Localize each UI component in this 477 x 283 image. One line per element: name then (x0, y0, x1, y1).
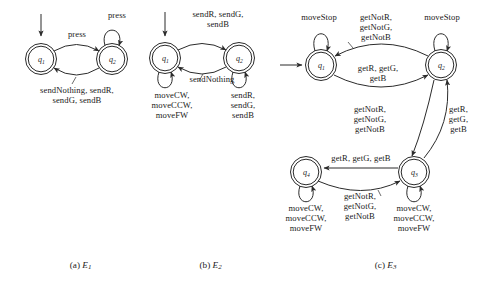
automata-figure: q1 q2 q1 q2 (0, 0, 477, 283)
edge-q1-q2-e1 (54, 45, 99, 52)
label-c-get-vert: getR, getG, getB (440, 104, 477, 135)
label-c-getnot-vert: getNotR, getNotG, getNotB (341, 104, 399, 135)
label-a-send-multi: sendNothing, sendR, sendG, sendB (16, 85, 138, 105)
edge-q2-q1-e3 (335, 44, 428, 56)
caption-b-prefix: (b) (200, 260, 213, 270)
edge-q2-q1-e1 (54, 68, 99, 75)
edge-q2-q1-e2 (178, 67, 226, 74)
caption-a-subscript: 1 (88, 263, 92, 271)
subfigure-e1: q1 q2 (26, 14, 128, 84)
self-loop-q3-e3 (407, 186, 421, 202)
caption-b: (b) E2 (170, 250, 242, 281)
self-loop-q1-e2 (158, 72, 172, 88)
label-c-get-mid: getR, getG, getB (347, 63, 409, 83)
label-c-getnot-top: getNotR, getNotG, getNotB (347, 12, 405, 43)
caption-b-subscript: 2 (218, 263, 222, 271)
label-b-sendnothing: sendNothing (176, 74, 248, 84)
leader-line-e1 (72, 77, 76, 84)
edge-q4-q3-e3 (318, 181, 400, 191)
label-c-movestop-right: moveStop (411, 12, 473, 22)
label-c-move-left: moveCW, moveCCW, moveFW (275, 203, 337, 234)
figure-svg: q1 q2 q1 q2 (0, 0, 477, 283)
caption-c-subscript: 3 (393, 263, 397, 271)
caption-c: (c) E3 (345, 250, 417, 281)
caption-a: (a) E1 (40, 250, 112, 281)
label-b-move-left: moveCW, moveCCW, moveFW (138, 90, 206, 121)
caption-a-prefix: (a) (70, 260, 83, 270)
edge-q1-q2-e2 (178, 44, 226, 51)
label-a-press-mid: press (55, 29, 99, 39)
leader-line-c1-e3 (348, 42, 353, 48)
self-loop-q1-e3 (314, 34, 328, 51)
label-c-getnot-bottom: getNotR, getNotG, getNotB (331, 191, 389, 222)
label-a-press-top: press (95, 10, 139, 20)
edge-q2-q3-e3 (412, 80, 434, 156)
label-c-move-right: moveCW, moveCCW, moveFW (383, 203, 445, 234)
label-c-movestop-left: moveStop (288, 12, 350, 22)
self-loop-q4-e3 (299, 186, 313, 202)
label-b-send-rgb: sendR, sendG, sendB (173, 9, 263, 29)
label-c-get-bottom: getR, getG, getB (321, 153, 401, 163)
label-b-send-right: sendR, sendG, sendB (216, 90, 270, 121)
self-loop-q2-e3 (434, 34, 448, 51)
caption-c-prefix: (c) (375, 260, 388, 270)
